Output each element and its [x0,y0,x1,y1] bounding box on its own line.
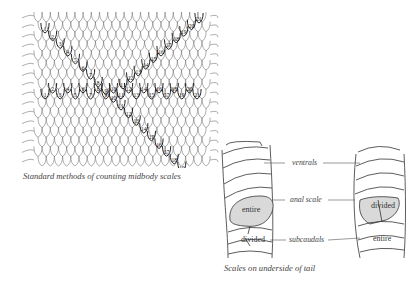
svg-text:19: 19 [181,29,187,35]
svg-text:5: 5 [74,57,77,63]
svg-text:9: 9 [104,92,107,98]
tail-scale-diagram: ventrals anal scale subcaudals entire di… [220,140,417,260]
svg-text:8: 8 [97,80,100,86]
svg-text:15: 15 [149,92,155,98]
svg-text:15: 15 [151,56,157,62]
svg-text:14: 14 [141,126,147,132]
svg-text:16: 16 [156,142,162,148]
svg-text:17: 17 [164,92,170,98]
svg-text:2: 2 [51,34,54,40]
svg-text:1: 1 [44,92,47,98]
svg-text:4: 4 [66,49,69,55]
svg-text:16: 16 [158,49,164,55]
svg-text:12: 12 [128,75,134,81]
svg-text:13: 13 [135,69,141,75]
svg-text:7: 7 [89,72,92,78]
svg-text:13: 13 [133,92,139,98]
midbody-caption: Standard methods of counting midbody sca… [23,171,181,181]
svg-text:21: 21 [196,16,202,22]
label-anal-scale: anal scale [290,195,322,204]
svg-text:6: 6 [82,86,85,92]
left-subcaudal-divided: divided [241,235,265,244]
svg-text:18: 18 [173,36,179,42]
svg-text:2: 2 [51,86,54,92]
svg-text:17: 17 [166,42,172,48]
svg-text:19: 19 [179,165,185,168]
svg-text:11: 11 [120,82,126,88]
svg-text:5: 5 [74,92,77,98]
svg-text:21: 21 [194,92,200,98]
right-anal-divided: divided [371,201,395,210]
svg-text:10: 10 [111,86,117,92]
svg-text:19: 19 [179,92,185,98]
svg-text:18: 18 [171,86,177,92]
svg-text:6: 6 [82,65,85,71]
svg-text:20: 20 [187,86,193,92]
svg-text:10: 10 [111,95,117,101]
svg-text:11: 11 [118,92,124,98]
svg-text:12: 12 [126,111,132,117]
svg-text:8: 8 [97,86,100,92]
svg-text:4: 4 [66,86,69,92]
svg-text:20: 20 [189,23,195,29]
svg-text:12: 12 [126,86,132,92]
svg-text:15: 15 [149,134,155,140]
svg-text:3: 3 [59,92,62,98]
svg-text:13: 13 [133,118,139,124]
svg-text:18: 18 [171,157,177,163]
scale-grid-illustration: 1234567891011121314151617181920211234567… [20,8,220,168]
left-anal-entire: entire [242,205,260,214]
svg-text:14: 14 [141,86,147,92]
label-ventrals: ventrals [292,158,317,167]
svg-text:14: 14 [143,62,149,68]
svg-text:1: 1 [44,26,47,32]
tail-caption: Scales on underside of tail [224,263,315,273]
label-subcaudals: subcaudals [289,235,324,244]
svg-text:17: 17 [164,149,170,155]
svg-text:3: 3 [59,41,62,47]
right-subcaudal-entire: entire [373,234,391,243]
svg-text:16: 16 [156,86,162,92]
midbody-scale-diagram: 1234567891011121314151617181920211234567… [20,8,220,168]
svg-text:11: 11 [118,103,124,109]
svg-text:7: 7 [89,92,92,98]
